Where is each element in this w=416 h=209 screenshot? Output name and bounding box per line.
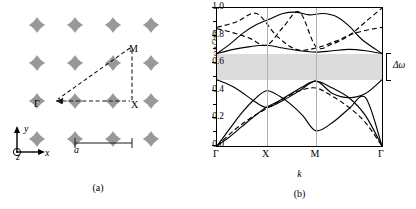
band-gap-bracket xyxy=(386,53,391,81)
y-tick-mark xyxy=(212,90,216,91)
y-tick-mark xyxy=(212,62,216,63)
y-tick-mark xyxy=(212,117,216,118)
figure-container: M X Γ x y z a (a) ωa/2πc 0.00.20.40.60.8… xyxy=(0,0,416,209)
band-curve-band-5-solid xyxy=(217,45,382,53)
band-gap-label: Δω xyxy=(393,60,405,70)
y-tick-mark-minor xyxy=(213,131,216,132)
panel-a-photonic-crystal: M X Γ x y z a (a) xyxy=(0,0,196,209)
x-tick-label-Γ: Γ xyxy=(367,149,395,159)
x-tick-label-M: M xyxy=(301,149,329,159)
band-curves xyxy=(217,8,382,146)
gridline-X xyxy=(267,8,268,146)
y-tick-mark xyxy=(212,145,216,146)
y-tick-mark xyxy=(212,35,216,36)
label-axis-z: z xyxy=(16,152,20,162)
label-m-point: M xyxy=(129,44,138,54)
x-axis-label: k xyxy=(216,168,383,179)
band-curve-band-7-dashed xyxy=(217,8,382,49)
panel-b-caption: (b) xyxy=(216,188,383,199)
label-lattice-constant: a xyxy=(74,145,79,155)
panel-a-caption: (a) xyxy=(0,182,196,193)
y-tick-mark-minor xyxy=(213,104,216,105)
label-axis-x: x xyxy=(45,148,49,158)
y-tick-mark-minor xyxy=(213,21,216,22)
y-tick-mark-minor xyxy=(213,48,216,49)
x-tick-label-Γ: Γ xyxy=(202,149,230,159)
label-gamma-point: Γ xyxy=(34,99,40,109)
band-curve-band-8-dashed xyxy=(217,13,382,50)
label-axis-y: y xyxy=(24,124,28,134)
y-tick-mark-minor xyxy=(213,76,216,77)
band-diagram-plot xyxy=(216,7,383,147)
label-x-point: X xyxy=(131,100,138,110)
panel-b-band-structure: ωa/2πc 0.00.20.40.60.81.0 ΓXMΓ Δω k (b) xyxy=(196,0,416,209)
band-curve-band-3-solid xyxy=(217,80,382,108)
x-tick-label-X: X xyxy=(252,149,280,159)
band-curve-band-2-solid xyxy=(217,91,382,146)
y-tick-mark xyxy=(212,7,216,8)
gridline-M xyxy=(316,8,317,146)
